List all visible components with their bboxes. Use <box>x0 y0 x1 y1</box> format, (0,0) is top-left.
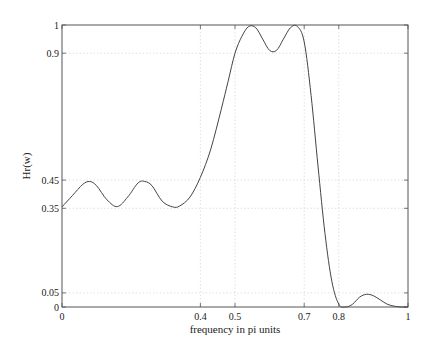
axis-ticks: 00.40.50.70.8100.050.350.450.91 <box>42 20 411 323</box>
x-tick-label: 0.4 <box>194 311 207 322</box>
y-tick-label: 0.9 <box>47 48 60 59</box>
x-tick-label: 0.7 <box>298 311 311 322</box>
y-tick-label: 1 <box>54 20 59 31</box>
grid-lines <box>62 25 408 307</box>
x-axis-label: frequency in pi units <box>190 323 281 335</box>
y-axis-label: Hr(w) <box>20 152 33 179</box>
y-tick-label: 0 <box>54 302 59 313</box>
x-tick-label: 0.5 <box>229 311 242 322</box>
y-tick-label: 0.45 <box>42 175 60 186</box>
x-tick-label: 0.8 <box>333 311 346 322</box>
y-tick-label: 0.05 <box>42 287 60 298</box>
chart: 00.40.50.70.8100.050.350.450.91 frequenc… <box>0 0 430 353</box>
x-tick-label: 1 <box>406 311 411 322</box>
x-tick-label: 0 <box>60 311 65 322</box>
y-tick-label: 0.35 <box>42 203 60 214</box>
